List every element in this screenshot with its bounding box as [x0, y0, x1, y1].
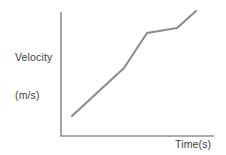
velocity-data-line [72, 11, 196, 116]
y-axis-label-quantity: Velocity [15, 51, 52, 64]
y-axis-label-unit: (m/s) [15, 89, 52, 102]
axes-group [60, 12, 214, 136]
velocity-time-graph-figure: Velocity (m/s) Time(s) [0, 0, 226, 155]
x-axis-label: Time(s) [175, 138, 211, 151]
data-series-group [72, 11, 196, 116]
y-axis-label: Velocity (m/s) [15, 26, 52, 126]
